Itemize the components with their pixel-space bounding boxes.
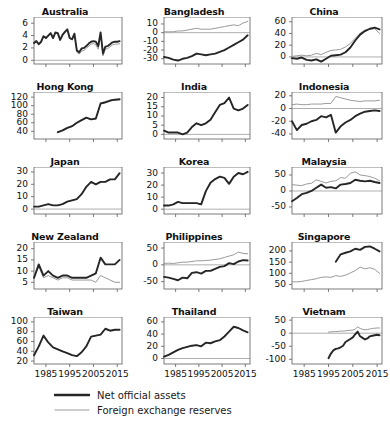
series-line-foreign-exchange-reserves: [164, 172, 248, 206]
panel-title-japan: Japan: [0, 156, 130, 167]
y-tick-label: 40: [258, 29, 286, 38]
plot-frame: [292, 242, 382, 289]
y-tick-label: -50: [258, 342, 286, 351]
x-tick-label: 2015: [101, 370, 133, 379]
plot-frame: [34, 167, 122, 214]
panel-thailand: Thailand60402001985199520052015: [130, 306, 258, 376]
series-line-net-official-assets: [328, 332, 379, 359]
y-tick-label: 50: [258, 280, 286, 289]
y-tick-label: -50: [130, 277, 158, 286]
series-line-net-official-assets: [34, 29, 120, 53]
y-tick-label: 0: [258, 104, 286, 113]
chart-legend: Net official assets Foreign exchange res…: [0, 384, 390, 421]
plot-frame: [164, 17, 250, 64]
panel-title-bangladesh: Bangladesh: [130, 6, 258, 17]
plot-area-malaysia: 500-50: [258, 167, 390, 234]
series-line-foreign-exchange-reserves: [292, 29, 380, 57]
series-line-foreign-exchange-reserves: [34, 173, 120, 206]
panel-title-taiwan: Taiwan: [0, 306, 130, 317]
series-line-foreign-exchange-reserves: [34, 329, 120, 356]
panel-title-singapore: Singapore: [258, 231, 390, 242]
y-tick-label: 20: [0, 244, 28, 253]
y-tick-label: 0: [258, 186, 286, 195]
y-tick-label: -30: [130, 54, 158, 63]
y-tick-label: 0: [0, 56, 28, 65]
plot-area-japan: 3020100: [0, 167, 130, 234]
y-tick-label: 5: [0, 278, 28, 287]
series-line-foreign-exchange-reserves: [292, 96, 380, 104]
y-tick-label: 20: [0, 180, 28, 189]
y-tick-label: 0: [130, 205, 158, 214]
plot-frame: [292, 317, 382, 364]
y-tick-label: 20: [258, 41, 286, 50]
plot-area-thailand: 60402001985199520052015: [130, 317, 258, 384]
panel-hong-kong: Hong Kong120100806040: [0, 81, 130, 151]
y-tick-label: 0: [130, 260, 158, 269]
series-line-net-official-assets: [336, 246, 380, 261]
y-tick-label: 40: [0, 127, 28, 136]
plot-frame: [164, 242, 250, 289]
panel-india: India20151050: [130, 81, 258, 151]
plot-area-new-zealand: 2015105: [0, 242, 130, 309]
series-line-net-official-assets: [164, 172, 248, 206]
y-tick-label: 50: [130, 244, 158, 253]
y-tick-label: 40: [0, 347, 28, 356]
series-line-foreign-exchange-reserves: [292, 172, 380, 186]
y-tick-label: 30: [130, 169, 158, 178]
series-line-net-official-assets: [34, 329, 120, 356]
legend-entry-net-official-assets: Net official assets: [54, 388, 186, 402]
y-tick-label: 40: [130, 330, 158, 339]
y-tick-label: 20: [258, 91, 286, 100]
plot-area-indonesia: 200-20-40: [258, 92, 390, 159]
panel-new-zealand: New Zealand2015105: [0, 231, 130, 301]
panel-title-thailand: Thailand: [130, 306, 258, 317]
y-tick-label: 80: [0, 327, 28, 336]
plot-frame: [34, 242, 122, 289]
plot-area-australia: 0246: [0, 17, 130, 84]
plot-frame: [164, 317, 250, 364]
y-tick-label: -50: [258, 202, 286, 211]
panel-bangladesh: Bangladesh100-10-20-30: [130, 6, 258, 76]
panel-philippines: Philippines500-50: [130, 231, 258, 301]
x-tick-label: 2015: [229, 370, 261, 379]
plot-area-korea: 3020100: [130, 167, 258, 234]
small-multiples-chart-grid: Australia0246Bangladesh100-10-20-30China…: [0, 0, 390, 380]
plot-area-vietnam: 500-50-1001985199520052015: [258, 317, 390, 384]
series-line-foreign-exchange-reserves: [164, 252, 248, 263]
plot-area-hong-kong: 120100806040: [0, 92, 130, 159]
x-tick-label: 2015: [361, 370, 390, 379]
y-tick-label: 0: [258, 329, 286, 338]
plot-frame: [34, 92, 122, 139]
y-tick-label: 100: [258, 269, 286, 278]
y-tick-label: 50: [258, 170, 286, 179]
series-line-net-official-assets: [34, 173, 120, 206]
y-tick-label: 60: [130, 317, 158, 326]
series-line-net-official-assets: [34, 258, 120, 278]
y-tick-label: 4: [0, 31, 28, 40]
series-line-net-official-assets: [58, 99, 120, 132]
y-tick-label: 60: [258, 17, 286, 26]
y-tick-label: 60: [0, 337, 28, 346]
panel-singapore: Singapore20015010050: [258, 231, 390, 301]
y-tick-label: 0: [130, 354, 158, 363]
plot-area-taiwan: 100806040201985199520052015: [0, 317, 130, 384]
plot-area-singapore: 20015010050: [258, 242, 390, 309]
y-tick-label: 10: [0, 267, 28, 276]
series-line-foreign-exchange-reserves: [164, 98, 248, 135]
y-tick-label: 10: [130, 193, 158, 202]
panel-title-philippines: Philippines: [130, 231, 258, 242]
series-line-foreign-exchange-reserves: [292, 267, 380, 282]
plot-area-india: 20151050: [130, 92, 258, 159]
series-line-foreign-exchange-reserves: [34, 30, 120, 56]
y-tick-label: 30: [0, 167, 28, 176]
y-tick-label: 10: [0, 192, 28, 201]
series-line-foreign-exchange-reserves: [164, 21, 248, 31]
legend-label-net-official-assets: Net official assets: [97, 390, 186, 401]
legend-entry-foreign-exchange-reserves: Foreign exchange reserves: [54, 403, 232, 417]
y-tick-label: 20: [130, 181, 158, 190]
y-tick-label: 20: [130, 342, 158, 351]
series-line-net-official-assets: [292, 28, 380, 62]
panel-taiwan: Taiwan100806040201985199520052015: [0, 306, 130, 376]
series-line-foreign-exchange-reserves: [328, 327, 379, 332]
panel-title-malaysia: Malaysia: [258, 156, 390, 167]
